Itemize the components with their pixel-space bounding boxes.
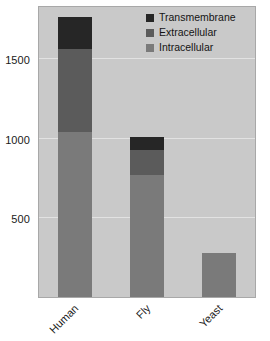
legend-label: Extracellular bbox=[159, 27, 217, 38]
bar-segment-human-extracellular[interactable] bbox=[58, 49, 92, 132]
chart-legend: TransmembraneExtracellularIntracellular bbox=[146, 11, 236, 54]
legend-swatch-icon-extracellular bbox=[146, 29, 154, 37]
chart-root: 50010001500 HumanFlyYeast TransmembraneE… bbox=[0, 0, 270, 341]
y-tick-label-500: 500 bbox=[11, 213, 30, 225]
bar-human[interactable] bbox=[58, 7, 92, 297]
bar-segment-human-transmembrane[interactable] bbox=[58, 17, 92, 49]
bar-segment-human-intracellular[interactable] bbox=[58, 132, 92, 297]
legend-swatch-icon-transmembrane bbox=[146, 14, 154, 22]
bar-segment-fly-extracellular[interactable] bbox=[130, 150, 164, 175]
x-tick-label-human: Human bbox=[47, 302, 81, 336]
legend-swatch-icon-intracellular bbox=[146, 44, 154, 52]
legend-item-intracellular[interactable]: Intracellular bbox=[146, 41, 236, 54]
y-axis: 50010001500 bbox=[0, 6, 34, 298]
x-tick-label-yeast: Yeast bbox=[197, 302, 225, 330]
legend-label: Transmembrane bbox=[159, 12, 236, 23]
legend-item-extracellular[interactable]: Extracellular bbox=[146, 26, 236, 39]
x-tick-label-fly: Fly bbox=[134, 302, 153, 321]
bar-segment-fly-transmembrane[interactable] bbox=[130, 137, 164, 150]
bar-segment-yeast-intracellular[interactable] bbox=[202, 253, 236, 297]
legend-item-transmembrane[interactable]: Transmembrane bbox=[146, 11, 236, 24]
bar-segment-fly-intracellular[interactable] bbox=[130, 175, 164, 297]
x-axis: HumanFlyYeast bbox=[38, 300, 256, 341]
legend-label: Intracellular bbox=[159, 42, 213, 53]
y-tick-label-1000: 1000 bbox=[5, 134, 30, 146]
y-tick-label-1500: 1500 bbox=[5, 54, 30, 66]
